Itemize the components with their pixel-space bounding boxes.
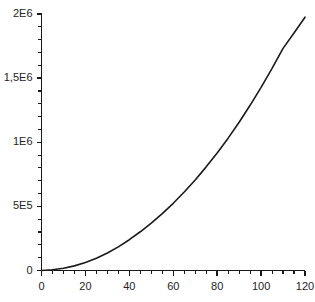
axes (42, 14, 306, 271)
y-tick-label: 5E5 (0, 200, 33, 211)
y-tick-label: 1E6 (0, 136, 33, 147)
y-tick-label: 2E6 (0, 8, 33, 19)
y-tick-label: 0 (0, 265, 33, 276)
x-tick-label: 0 (22, 281, 62, 292)
chart-container: 05E51E61,5E62E6 020406080100120 (0, 0, 315, 302)
data-series (42, 17, 306, 270)
x-tick-label: 20 (65, 281, 105, 292)
x-tick-label: 40 (109, 281, 149, 292)
x-tick-label: 80 (197, 281, 237, 292)
x-tick-label: 120 (285, 281, 315, 292)
chart-plot-area (0, 0, 315, 302)
series-line-curve (42, 17, 306, 270)
x-tick-label: 60 (153, 281, 193, 292)
y-tick-label: 1,5E6 (0, 72, 33, 83)
x-tick-label: 100 (241, 281, 281, 292)
axis-ticks (37, 14, 306, 276)
